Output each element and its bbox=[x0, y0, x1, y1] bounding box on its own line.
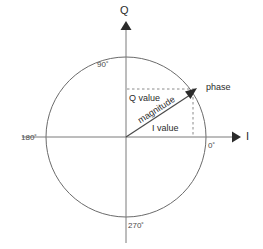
angle-label-180: 180˚ bbox=[21, 134, 37, 142]
i-axis-label: I bbox=[246, 131, 249, 142]
q-value-label: Q value bbox=[129, 94, 160, 103]
i-value-label: I value bbox=[152, 124, 179, 133]
i-axis-arrowhead bbox=[232, 132, 241, 143]
q-axis-arrowhead bbox=[121, 21, 132, 30]
angle-label-270: 270˚ bbox=[128, 222, 144, 230]
iq-polar-diagram: Q I 90˚ 0˚ 180˚ 270˚ Q value I value mag… bbox=[0, 0, 263, 249]
iq-diagram-canvas bbox=[0, 0, 263, 249]
angle-label-0: 0˚ bbox=[208, 142, 215, 150]
phase-label: phase bbox=[206, 83, 231, 92]
q-axis-label: Q bbox=[120, 5, 129, 16]
angle-label-90: 90˚ bbox=[97, 61, 109, 69]
